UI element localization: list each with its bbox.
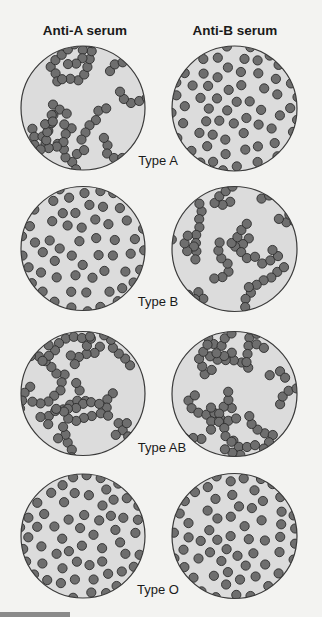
plate-type-ab-anti-a: [20, 330, 146, 457]
red-blood-cell: [222, 580, 231, 589]
red-blood-cell: [88, 273, 97, 282]
red-blood-cell: [257, 516, 266, 525]
red-blood-cell: [260, 84, 269, 93]
red-blood-cell: [291, 539, 300, 548]
red-blood-cell: [204, 81, 213, 90]
red-blood-cell: [95, 516, 104, 525]
label-type-b: Type B: [118, 294, 198, 309]
red-blood-cell: [38, 248, 47, 257]
red-blood-cell: [37, 542, 46, 551]
red-blood-cell: [203, 506, 212, 515]
red-blood-cell: [98, 544, 107, 553]
red-blood-cell: [16, 523, 25, 532]
red-blood-cell: [115, 204, 124, 213]
red-blood-cell: [218, 273, 227, 282]
red-blood-cell: [242, 254, 251, 263]
red-blood-cell: [273, 90, 282, 99]
red-blood-cell: [72, 378, 81, 387]
red-blood-cell: [250, 252, 259, 261]
red-blood-cell: [118, 284, 127, 293]
red-blood-cell: [80, 189, 89, 198]
red-blood-cell: [40, 509, 49, 518]
red-blood-cell: [58, 75, 67, 84]
red-blood-cell: [36, 412, 45, 421]
red-blood-cell: [244, 535, 253, 544]
red-blood-cell: [247, 504, 256, 513]
red-blood-cell: [289, 195, 298, 204]
red-blood-cell: [242, 358, 251, 367]
red-blood-cell: [286, 104, 295, 113]
red-blood-cell: [223, 568, 232, 577]
red-blood-cell: [206, 425, 215, 434]
red-blood-cell: [122, 419, 131, 428]
red-blood-cell: [76, 524, 85, 533]
red-blood-cell: [293, 115, 302, 124]
red-blood-cell: [60, 498, 69, 507]
red-blood-cell: [194, 554, 203, 563]
red-blood-cell: [102, 104, 111, 113]
red-blood-cell: [199, 69, 208, 78]
red-blood-cell: [259, 343, 268, 352]
red-blood-cell: [36, 399, 45, 408]
red-blood-cell: [105, 287, 114, 296]
red-blood-cell: [210, 274, 219, 283]
label-type-o: Type O: [118, 582, 198, 597]
red-blood-cell: [116, 538, 125, 547]
red-blood-cell: [104, 569, 113, 578]
red-blood-cell: [232, 97, 241, 106]
red-blood-cell: [77, 333, 86, 342]
red-blood-cell: [253, 56, 262, 65]
red-blood-cell: [203, 340, 212, 349]
red-blood-cell: [244, 283, 253, 292]
red-blood-cell: [285, 202, 294, 211]
red-blood-cell: [122, 51, 131, 60]
red-blood-cell: [275, 111, 284, 120]
red-blood-cell: [240, 54, 249, 63]
red-blood-cell: [119, 513, 128, 522]
red-blood-cell: [227, 437, 236, 446]
red-blood-cell: [54, 434, 63, 443]
red-blood-cell: [226, 532, 235, 541]
red-blood-cell: [38, 356, 47, 365]
red-blood-cell: [213, 514, 222, 523]
red-blood-cell: [180, 102, 189, 111]
red-blood-cell: [118, 58, 127, 67]
red-blood-cell: [110, 235, 119, 244]
red-blood-cell: [237, 81, 246, 90]
red-blood-cell: [240, 522, 249, 531]
red-blood-cell: [63, 60, 72, 69]
red-blood-cell: [205, 526, 214, 535]
red-blood-cell: [222, 545, 231, 554]
label-type-a: Type A: [118, 153, 198, 168]
red-blood-cell: [261, 560, 270, 569]
red-blood-cell: [52, 273, 61, 282]
red-blood-cell: [239, 129, 248, 138]
red-blood-cell: [89, 318, 98, 327]
red-blood-cell: [260, 536, 269, 545]
red-blood-cell: [38, 559, 47, 568]
red-blood-cell: [117, 567, 126, 576]
red-blood-cell: [169, 528, 178, 537]
red-blood-cell: [221, 135, 230, 144]
red-blood-cell: [85, 332, 94, 341]
red-blood-cell: [72, 557, 81, 566]
red-blood-cell: [121, 549, 130, 558]
red-blood-cell: [45, 236, 54, 245]
red-blood-cell: [273, 177, 282, 186]
red-blood-cell: [122, 216, 131, 225]
red-blood-cell: [188, 81, 197, 90]
red-blood-cell: [208, 130, 217, 139]
red-blood-cell: [56, 579, 65, 588]
red-blood-cell: [70, 360, 79, 369]
red-blood-cell: [299, 194, 308, 203]
red-blood-cell: [279, 263, 288, 272]
red-blood-cell: [163, 279, 172, 288]
red-blood-cell: [190, 391, 199, 400]
red-blood-cell: [83, 307, 92, 316]
red-blood-cell: [260, 460, 269, 469]
red-blood-cell: [157, 88, 166, 97]
plate-type-o-anti-a: [20, 472, 146, 600]
red-blood-cell: [211, 494, 220, 503]
red-blood-cell: [293, 93, 302, 102]
red-blood-cell: [249, 549, 258, 558]
